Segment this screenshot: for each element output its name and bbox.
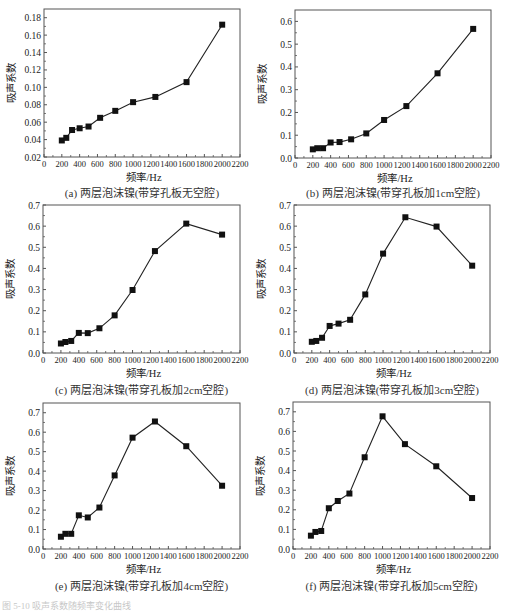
y-tick-label: 0.0 xyxy=(278,545,290,555)
y-tick-label: 0.2 xyxy=(278,505,290,515)
data-point-marker xyxy=(433,463,439,469)
x-tick-label: 1400 xyxy=(410,551,427,561)
x-tick-label: 2000 xyxy=(464,551,481,561)
x-tick-label: 2200 xyxy=(482,551,499,561)
x-tick-label: 400 xyxy=(322,551,335,561)
data-point-marker xyxy=(380,413,386,419)
x-tick-label: 0 xyxy=(291,551,295,561)
data-point-marker xyxy=(402,441,408,447)
figure-note: 图 5-10 吸声系数随频率变化曲线 xyxy=(2,599,131,612)
x-tick-label: 1000 xyxy=(374,551,391,561)
y-axis-label: 吸声系数 xyxy=(254,455,266,496)
x-tick-label: 800 xyxy=(358,551,371,561)
y-tick-label: 0.4 xyxy=(278,466,290,476)
y-tick-label: 0.5 xyxy=(278,447,290,457)
x-tick-label: 1200 xyxy=(392,551,409,561)
data-point-marker xyxy=(362,454,368,460)
x-tick-label: 600 xyxy=(340,551,353,561)
x-tick-label: 1800 xyxy=(446,551,463,561)
y-tick-label: 0.7 xyxy=(278,407,290,417)
data-point-marker xyxy=(469,495,475,501)
x-tick-label: 200 xyxy=(305,551,318,561)
y-tick-label: 0.3 xyxy=(278,486,290,496)
data-point-marker xyxy=(335,498,341,504)
data-point-marker xyxy=(318,528,324,534)
x-axis-label: 频率/Hz xyxy=(376,563,412,575)
data-point-marker xyxy=(312,529,318,535)
x-tick-label: 1600 xyxy=(428,551,445,561)
panel-caption-f: (f) 两层泡沫镍(带穿孔板加5cm空腔) xyxy=(263,577,515,593)
data-point-marker xyxy=(326,505,332,511)
y-tick-label: 0.1 xyxy=(278,525,290,535)
data-point-marker xyxy=(346,491,352,497)
y-tick-label: 0.6 xyxy=(278,427,290,437)
data-line xyxy=(311,416,472,535)
